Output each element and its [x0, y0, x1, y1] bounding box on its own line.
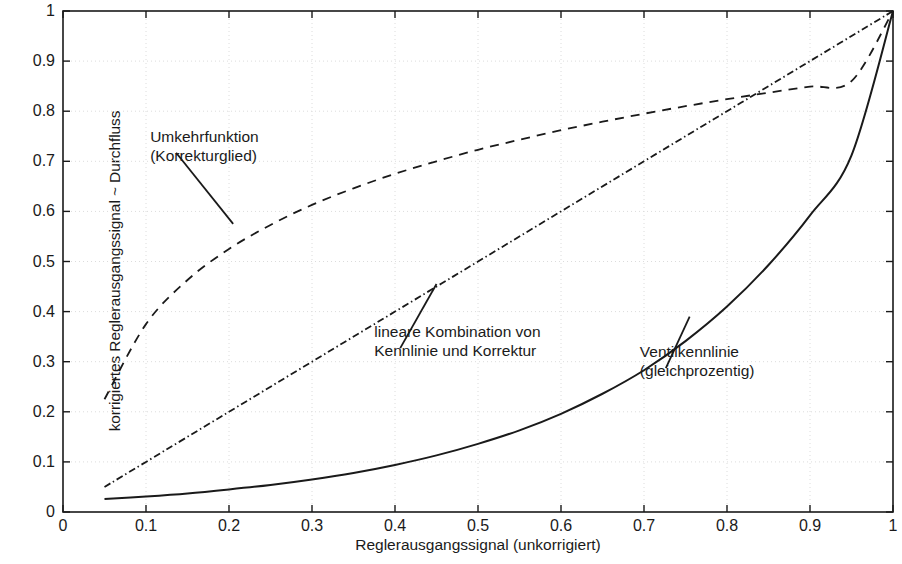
tick-label-layer: 00.10.20.30.40.50.60.70.80.9100.10.20.30…: [0, 0, 902, 564]
y-axis-tick-label: 0.2: [9, 404, 55, 420]
annotation-umkehrfunktion-line-2: (Korrekturglied): [150, 146, 259, 165]
x-axis-tick-label: 0.7: [624, 518, 664, 534]
x-axis-tick-label: 0.2: [209, 518, 249, 534]
x-axis-tick-label: 0.1: [126, 518, 166, 534]
y-axis-tick-label: 1: [9, 3, 55, 19]
x-axis-tick-label: 0: [43, 518, 83, 534]
annotation-lineare-kombination: lineare Kombination vonKennlinie und Kor…: [374, 322, 540, 360]
annotation-lineare-kombination-line-2: Kennlinie und Korrektur: [374, 341, 540, 360]
y-axis-tick-label: 0.3: [9, 354, 55, 370]
x-axis-tick-label: 0.3: [292, 518, 332, 534]
chart-figure: korrigiertes Reglerausgangssignal ~ Durc…: [0, 0, 902, 564]
y-axis-tick-label: 0.9: [9, 53, 55, 69]
y-axis-tick-label: 0.7: [9, 153, 55, 169]
annotation-lineare-kombination-line-1: lineare Kombination von: [374, 322, 540, 341]
annotation-ventilkennlinie: Ventilkennlinie(gleichprozentig): [640, 342, 755, 380]
annotation-umkehrfunktion-line-1: Umkehrfunktion: [150, 127, 259, 146]
annotation-umkehrfunktion: Umkehrfunktion(Korrekturglied): [150, 127, 259, 165]
y-axis-tick-label: 0.6: [9, 203, 55, 219]
annotation-ventilkennlinie-line-1: Ventilkennlinie: [640, 342, 755, 361]
y-axis-tick-label: 0.5: [9, 254, 55, 270]
y-axis-tick-label: 0.1: [9, 454, 55, 470]
x-axis-tick-label: 1: [873, 518, 902, 534]
y-axis-tick-label: 0.4: [9, 304, 55, 320]
x-axis-tick-label: 0.6: [541, 518, 581, 534]
x-axis-tick-label: 0.8: [707, 518, 747, 534]
x-axis-tick-label: 0.9: [790, 518, 830, 534]
x-axis-tick-label: 0.5: [458, 518, 498, 534]
y-axis-tick-label: 0.8: [9, 103, 55, 119]
annotation-ventilkennlinie-line-2: (gleichprozentig): [640, 361, 755, 380]
x-axis-tick-label: 0.4: [375, 518, 415, 534]
